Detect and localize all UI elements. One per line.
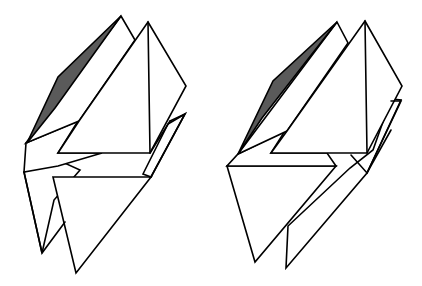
right-solid — [227, 21, 402, 268]
diagram-canvas — [0, 0, 422, 286]
left-solid — [24, 16, 186, 273]
left-lower-front-flap — [53, 177, 151, 273]
